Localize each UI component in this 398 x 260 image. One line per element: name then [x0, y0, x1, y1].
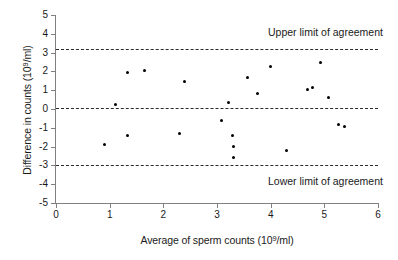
data-point [256, 92, 259, 95]
data-point [178, 132, 181, 135]
y-tick-label: 4 [26, 29, 48, 39]
data-point [126, 71, 129, 74]
y-tick-label: -5 [26, 198, 48, 208]
lower-limit-of-agreement-label: Lower limit of agreement [268, 175, 383, 187]
y-tick [51, 147, 56, 148]
upper-limit-of-agreement [56, 49, 378, 50]
data-point [269, 65, 272, 68]
bland-altman-chart: Difference in counts (109/ml) Average of… [0, 0, 398, 260]
x-tick [378, 203, 379, 208]
y-tick [51, 53, 56, 54]
y-axis-label-pre: Difference in counts (10 [21, 66, 33, 174]
data-point [126, 134, 129, 137]
data-point [246, 76, 249, 79]
upper-limit-of-agreement-label: Upper limit of agreement [268, 26, 383, 38]
y-tick-label: -1 [26, 123, 48, 133]
y-tick [51, 34, 56, 35]
x-axis-label-post: /ml) [276, 234, 293, 246]
data-point [285, 149, 288, 152]
y-tick-label: 1 [26, 85, 48, 95]
x-tick-label: 6 [368, 210, 388, 220]
y-tick-label: 2 [26, 66, 48, 76]
mean-difference [56, 108, 378, 109]
y-tick [51, 184, 56, 185]
data-point [327, 96, 330, 99]
x-tick [110, 203, 111, 208]
lower-limit-of-agreement [56, 165, 378, 166]
x-tick-label: 3 [207, 210, 227, 220]
x-tick [56, 203, 57, 208]
y-tick [51, 109, 56, 110]
y-tick [51, 15, 56, 16]
y-tick [51, 90, 56, 91]
data-point [337, 123, 340, 126]
x-tick-label: 0 [46, 210, 66, 220]
x-tick [163, 203, 164, 208]
data-point [103, 143, 106, 146]
data-point [231, 134, 234, 137]
x-tick-label: 4 [261, 210, 281, 220]
x-axis-label: Average of sperm counts (109/ml) [56, 234, 378, 246]
x-tick-label: 5 [314, 210, 334, 220]
data-point [114, 103, 117, 106]
y-tick-label: -4 [26, 179, 48, 189]
x-tick [271, 203, 272, 208]
y-tick-label: 3 [26, 48, 48, 58]
y-tick [51, 71, 56, 72]
x-tick-label: 2 [153, 210, 173, 220]
data-point [232, 156, 235, 159]
data-point [227, 101, 230, 104]
y-tick-label: 0 [26, 104, 48, 114]
data-point [143, 69, 146, 72]
data-point [306, 88, 309, 91]
x-tick-label: 1 [100, 210, 120, 220]
data-point [183, 80, 186, 83]
x-axis-label-pre: Average of sperm counts (10 [140, 234, 272, 246]
y-tick-label: 5 [26, 10, 48, 20]
data-point [311, 86, 314, 89]
x-tick [324, 203, 325, 208]
data-point [343, 125, 346, 128]
data-point [220, 119, 223, 122]
data-point [232, 145, 235, 148]
x-tick [217, 203, 218, 208]
y-tick-label: -3 [26, 160, 48, 170]
y-tick-label: -2 [26, 142, 48, 152]
y-tick [51, 128, 56, 129]
data-point [319, 61, 322, 64]
